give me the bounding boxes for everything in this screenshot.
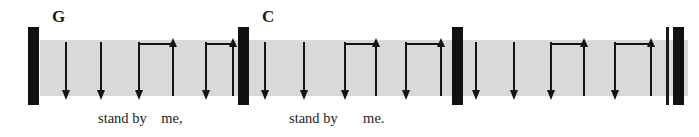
- stroke-shaft: [264, 42, 266, 92]
- stroke-shaft: [550, 42, 552, 92]
- stroke-shaft: [475, 42, 477, 92]
- strum-connector-bracket: [405, 43, 440, 45]
- strum-connector-bracket: [614, 43, 650, 45]
- stroke-shaft: [650, 45, 652, 96]
- stroke-shaft: [205, 42, 207, 92]
- stroke-shaft: [375, 45, 377, 96]
- lyric-measure-1: stand by me,: [98, 111, 183, 126]
- arrowhead-down-icon: [510, 90, 518, 100]
- stroke-shaft: [405, 42, 407, 92]
- arrowhead-up-icon: [580, 38, 588, 47]
- stroke-shaft: [344, 42, 346, 92]
- stroke-shaft: [232, 45, 234, 96]
- stroke-shaft: [440, 45, 442, 96]
- arrowhead-down-icon: [300, 90, 308, 100]
- stroke-shaft: [614, 42, 616, 92]
- arrowhead-down-icon: [135, 90, 143, 100]
- arrowhead-down-icon: [611, 90, 619, 100]
- stroke-shaft: [303, 42, 305, 92]
- arrowhead-down-icon: [402, 90, 410, 100]
- barline-measure-1-end: [238, 27, 249, 105]
- arrowhead-down-icon: [97, 90, 105, 100]
- barline-start: [28, 27, 39, 105]
- stroke-shaft: [65, 42, 67, 92]
- chord-symbol-measure-2: C: [262, 8, 274, 25]
- strum-connector-bracket: [344, 43, 375, 45]
- strum-connector-bracket: [138, 43, 172, 45]
- arrowhead-down-icon: [547, 90, 555, 100]
- arrowhead-up-icon: [229, 38, 237, 47]
- chord-symbol-measure-1: G: [52, 8, 65, 25]
- arrowhead-up-icon: [437, 38, 445, 47]
- arrowhead-down-icon: [62, 90, 70, 100]
- arrowhead-up-icon: [372, 38, 380, 47]
- strumming-pattern-figure: Gstand by me,Cstand by me.: [0, 0, 699, 137]
- arrowhead-down-icon: [202, 90, 210, 100]
- arrowhead-up-icon: [647, 38, 655, 47]
- lyric-measure-2: stand by me.: [289, 111, 384, 126]
- stroke-shaft: [100, 42, 102, 92]
- final-barline-thin: [666, 27, 669, 105]
- arrowhead-up-icon: [169, 38, 177, 47]
- stroke-shaft: [583, 45, 585, 96]
- arrowhead-down-icon: [472, 90, 480, 100]
- barline-measure-2-end: [452, 27, 463, 105]
- arrowhead-down-icon: [261, 90, 269, 100]
- stroke-shaft: [172, 45, 174, 96]
- stroke-shaft: [138, 42, 140, 92]
- strum-connector-bracket: [550, 43, 583, 45]
- stroke-shaft: [513, 42, 515, 92]
- final-barline-thick: [673, 27, 684, 105]
- arrowhead-down-icon: [341, 90, 349, 100]
